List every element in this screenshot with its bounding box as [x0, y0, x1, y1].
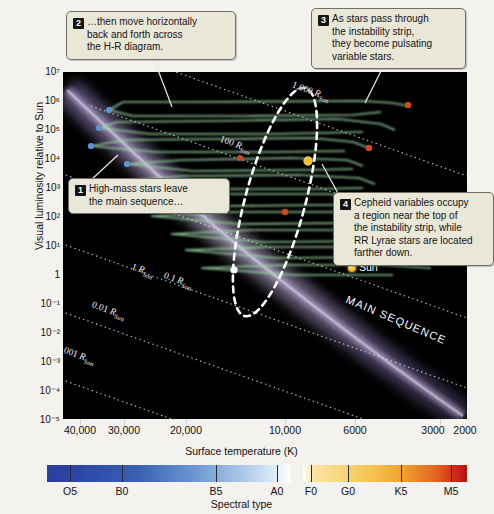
spectral-divider-b5 — [216, 465, 217, 482]
spectral-tick-o5: O5 — [50, 485, 90, 497]
spectral-colorbar-warm — [303, 465, 467, 482]
callout-1-number: 1 — [75, 185, 86, 196]
y-axis-label: Visual luminosity relative to Sun — [33, 81, 45, 271]
callout-1[interactable]: 1High-mass stars leave the main sequence… — [68, 178, 230, 214]
x-tick-10000: 10,000 — [255, 424, 315, 436]
red-marker-3 — [237, 155, 243, 161]
callout-1-line-2: the main sequence… — [75, 196, 222, 208]
white-marker-1 — [230, 266, 237, 273]
callout-3-number: 3 — [318, 15, 329, 26]
red-marker-4 — [282, 209, 288, 215]
callout-1-line-1: High-mass stars leave — [89, 183, 188, 194]
x-tick-30000: 30,000 — [94, 424, 154, 436]
blue-marker-4 — [124, 161, 130, 167]
y-tick-1em1: 10⁻¹ — [26, 299, 60, 309]
blue-marker-2 — [96, 125, 102, 131]
sun-marker-in-plot — [304, 157, 312, 165]
callout-2-line-3: the H-R diagram. — [73, 41, 228, 53]
y-tick-1em3: 10⁻³ — [26, 357, 60, 367]
callout-4-line-1: Cepheid variables occupy — [354, 197, 469, 208]
spectral-divider-a0 — [277, 465, 278, 482]
callout-4-line-4: RR Lyrae stars are located — [340, 235, 486, 247]
callout-3-line-2: the instability strip, — [318, 26, 458, 38]
callout-2-line-1: …then move horizontally — [87, 16, 197, 27]
track-2 — [99, 119, 395, 134]
spectral-divider-k5 — [401, 465, 402, 482]
callout-3[interactable]: 3As stars pass through the instability s… — [311, 8, 466, 69]
y-tick-1em4: 10⁻⁴ — [26, 386, 60, 396]
red-marker-2 — [366, 145, 372, 151]
spectral-divider-o5 — [70, 465, 71, 482]
spectral-tick-m5: M5 — [431, 485, 471, 497]
spectral-type-label: Spectral type — [0, 498, 483, 510]
spectral-divider-m5 — [451, 465, 452, 482]
x-tick-6000: 6000 — [329, 424, 381, 436]
callout-4[interactable]: 4Cepheid variables occupy a region near … — [333, 192, 494, 266]
callout-2-line-2: back and forth across — [73, 29, 228, 41]
track-1 — [109, 101, 409, 116]
callout-3-line-4: variable stars. — [318, 51, 458, 63]
callout-4-line-2: a region near the top of — [340, 210, 486, 222]
red-marker-1 — [405, 102, 411, 108]
callout-3-line-3: they become pulsating — [318, 38, 458, 50]
blue-marker-3 — [88, 143, 94, 149]
callout-2-number: 2 — [73, 18, 84, 29]
y-tick-1e7: 10⁷ — [26, 67, 60, 77]
blue-marker-1 — [106, 107, 112, 113]
spectral-tick-f0: F0 — [291, 485, 331, 497]
callout-4-line-3: the instability strip, while — [340, 222, 486, 234]
spectral-divider-b0 — [122, 465, 123, 482]
callout-3-line-1: As stars pass through — [332, 13, 429, 24]
spectral-tick-k5: K5 — [381, 485, 421, 497]
y-tick-1em2: 10⁻² — [26, 328, 60, 338]
y-tick-1: 1 — [26, 270, 60, 280]
spectral-divider-f0 — [311, 465, 312, 482]
spectral-tick-b0: B0 — [102, 485, 142, 497]
spectral-tick-g0: G0 — [328, 485, 368, 497]
x-tick-20000: 20,000 — [156, 424, 216, 436]
callout-2[interactable]: 2…then move horizontally back and forth … — [66, 11, 236, 60]
x-tick-2000: 2000 — [447, 424, 483, 436]
spectral-colorbar-blue — [47, 465, 290, 482]
spectral-divider-g0 — [348, 465, 349, 482]
callout-4-number: 4 — [340, 199, 351, 210]
spectral-tick-b5: B5 — [196, 485, 236, 497]
callout-4-line-5: farther down. — [340, 247, 486, 259]
radius-line-0p01 — [63, 378, 443, 419]
x-axis-label: Surface temperature (K) — [0, 445, 483, 457]
